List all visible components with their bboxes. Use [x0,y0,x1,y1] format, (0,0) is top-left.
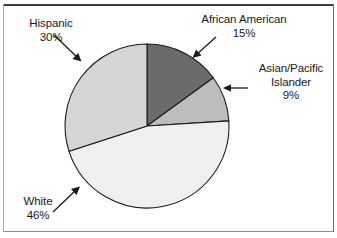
slice-label-hispanic-name: Hispanic [29,17,72,29]
slice-label-hispanic-value: 30% [18,31,84,45]
slice-label-african-american-value: 15% [192,27,296,41]
pie-slices [65,44,229,208]
slice-label-white-name: White [24,195,53,207]
callout-arrow-african-american [193,37,217,58]
slice-label-asian-pacific-name-line2: Islander [250,76,332,90]
slice-label-asian-pacific-name-line1: Asian/Pacific [259,62,324,74]
slice-label-asian-pacific-islander: Asian/Pacific Islander 9% [250,62,332,103]
slice-label-hispanic: Hispanic 30% [18,17,84,44]
slice-label-white-value: 46% [10,209,66,223]
callout-arrow-asian-pacific [223,84,248,91]
slice-label-african-american-name: African American [201,13,286,25]
slice-label-african-american: African American 15% [192,13,296,40]
pie-chart-figure: Hispanic 30% African American 15% Asian/… [0,0,337,238]
slice-label-white: White 46% [10,195,66,222]
slice-label-asian-pacific-value: 9% [250,89,332,103]
